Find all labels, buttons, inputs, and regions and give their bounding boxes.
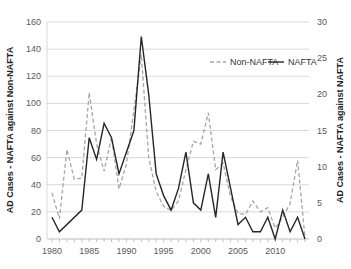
y-tick-label: 40 [31, 180, 41, 190]
x-tick-label: 2000 [191, 246, 211, 256]
y-tick-label: 160 [26, 17, 41, 27]
y2-tick-label: 30 [317, 17, 327, 27]
x-tick-label: 2010 [265, 246, 285, 256]
y2-tick-label: 25 [317, 53, 327, 63]
y2-axis-label: AD Cases - NAFTA against NAFTA [335, 57, 345, 203]
y-tick-label: 80 [31, 126, 41, 136]
y-tick-label: 140 [26, 44, 41, 54]
y-tick-label: 60 [31, 153, 41, 163]
x-tick-labels: 1980198519901995200020052010 [42, 246, 285, 256]
y-tick-label: 120 [26, 71, 41, 81]
series-line-non-nafta [52, 55, 305, 238]
x-tick-label: 1990 [116, 246, 136, 256]
y-tick-labels: 020406080100120140160 [26, 17, 41, 244]
line-chart: 1980198519901995200020052010 02040608010… [0, 0, 351, 269]
legend-label: NAFTA [288, 57, 317, 67]
y2-tick-label: 0 [317, 234, 322, 244]
y-tick-label: 20 [31, 207, 41, 217]
y-tick-label: 0 [36, 234, 41, 244]
y2-tick-label: 15 [317, 126, 327, 136]
y-axis-label: AD Cases - NAFTA against Non-NAFTA [5, 46, 15, 213]
gridlines [47, 22, 309, 212]
y-tick-label: 100 [26, 98, 41, 108]
y2-tick-label: 5 [317, 198, 322, 208]
y2-tick-label: 20 [317, 89, 327, 99]
x-tick-label: 2005 [228, 246, 248, 256]
y2-tick-label: 10 [317, 162, 327, 172]
x-tick-label: 1980 [42, 246, 62, 256]
x-tick-label: 1995 [154, 246, 174, 256]
y2-tick-labels: 051015202530 [317, 17, 327, 244]
legend: Non-NAFTANAFTA [210, 57, 317, 67]
x-tick-label: 1985 [79, 246, 99, 256]
